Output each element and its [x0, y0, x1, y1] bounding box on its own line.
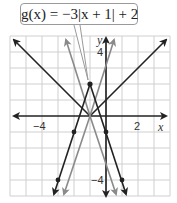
reflected-abs-left — [64, 116, 90, 194]
y-tick-4: 4 — [97, 46, 103, 58]
x-tick-neg4: −4 — [33, 120, 46, 132]
x-tick-2: 2 — [134, 120, 140, 132]
function-callout: g(x) = −3|x + 1| + 2 — [20, 3, 138, 25]
coordinate-graph — [0, 0, 177, 203]
y-tick-neg4: −4 — [91, 174, 104, 186]
x-axis-label: x — [158, 120, 163, 135]
